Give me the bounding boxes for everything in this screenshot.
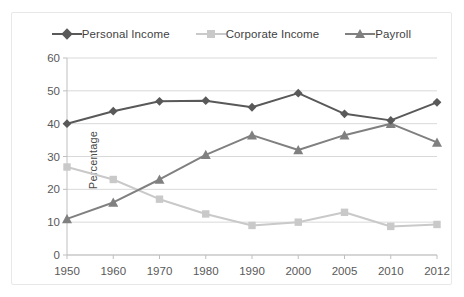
data-point-diamond bbox=[294, 89, 303, 98]
legend-label-corporate-income: Corporate Income bbox=[226, 28, 320, 40]
y-axis-tick-label: 20 bbox=[47, 183, 60, 195]
legend-item-personal-income[interactable]: Personal Income bbox=[52, 28, 170, 40]
y-axis-tick-label: 10 bbox=[47, 216, 60, 228]
data-point-square bbox=[341, 209, 348, 216]
chart-container: Personal IncomeCorporate IncomePayroll P… bbox=[11, 12, 452, 285]
data-point-square bbox=[387, 223, 394, 230]
data-point-triangle bbox=[247, 130, 257, 139]
y-axis-tick-label: 0 bbox=[54, 249, 60, 261]
x-axis-tick-label: 1990 bbox=[239, 265, 265, 277]
chart-legend: Personal IncomeCorporate IncomePayroll bbox=[12, 28, 451, 40]
data-point-square bbox=[156, 195, 163, 202]
data-point-square bbox=[433, 221, 440, 228]
data-point-diamond bbox=[433, 98, 442, 107]
data-point-diamond bbox=[109, 107, 118, 116]
data-point-square bbox=[110, 176, 117, 183]
series-markers-corporate-income bbox=[63, 163, 440, 230]
x-axis-tick-label: 1970 bbox=[147, 265, 173, 277]
plot-svg bbox=[67, 58, 437, 255]
plot-area: Percentage 01020304050601950196019701980… bbox=[67, 58, 437, 255]
data-point-square bbox=[202, 210, 209, 217]
data-point-square bbox=[295, 218, 302, 225]
data-point-square bbox=[248, 222, 255, 229]
data-point-square bbox=[63, 163, 70, 170]
x-axis-tick-label: 2010 bbox=[378, 265, 404, 277]
legend-swatch-payroll bbox=[345, 28, 375, 40]
y-axis-tick-label: 50 bbox=[47, 85, 60, 97]
series-markers-personal-income bbox=[63, 89, 442, 128]
data-point-triangle bbox=[108, 197, 118, 206]
data-point-diamond bbox=[63, 119, 72, 128]
legend-item-payroll[interactable]: Payroll bbox=[345, 28, 411, 40]
legend-marker-triangle-icon bbox=[355, 29, 365, 38]
legend-marker-square-icon bbox=[207, 30, 215, 38]
legend-item-corporate-income[interactable]: Corporate Income bbox=[196, 28, 320, 40]
x-axis-tick-label: 2000 bbox=[285, 265, 311, 277]
x-axis-tick-label: 2005 bbox=[332, 265, 358, 277]
x-axis-tick-label: 1960 bbox=[100, 265, 126, 277]
series-markers-payroll bbox=[62, 119, 442, 223]
legend-swatch-corporate-income bbox=[196, 28, 226, 40]
legend-label-payroll: Payroll bbox=[375, 28, 411, 40]
y-axis-tick-label: 30 bbox=[47, 151, 60, 163]
x-axis-tick-label: 2012 bbox=[424, 265, 450, 277]
legend-marker-diamond-icon bbox=[61, 28, 72, 39]
data-point-triangle bbox=[201, 150, 211, 159]
x-axis-tick-label: 1980 bbox=[193, 265, 219, 277]
data-point-diamond bbox=[155, 97, 164, 106]
data-point-diamond bbox=[340, 109, 349, 118]
y-axis-tick-label: 60 bbox=[47, 52, 60, 64]
legend-label-personal-income: Personal Income bbox=[82, 28, 170, 40]
y-axis-tick-label: 40 bbox=[47, 118, 60, 130]
data-point-diamond bbox=[248, 103, 257, 112]
data-point-diamond bbox=[201, 96, 210, 105]
series-line-corporate-income bbox=[67, 167, 437, 226]
x-axis-tick-label: 1950 bbox=[54, 265, 80, 277]
data-point-triangle bbox=[155, 174, 165, 183]
legend-swatch-personal-income bbox=[52, 28, 82, 40]
